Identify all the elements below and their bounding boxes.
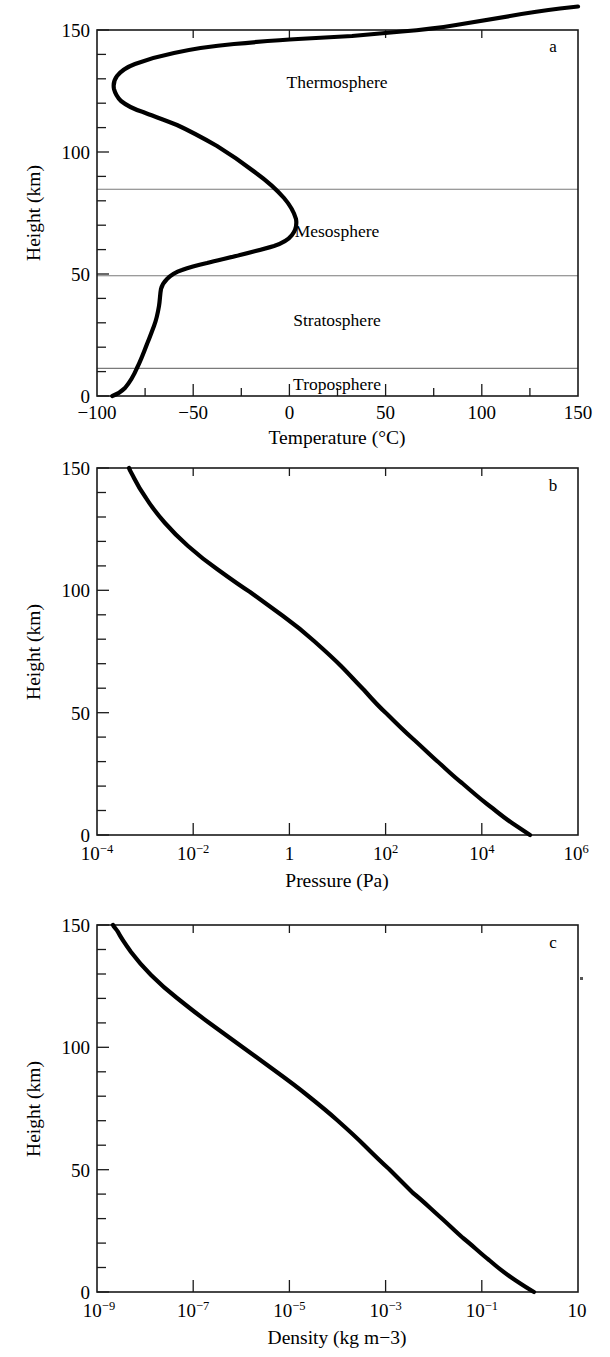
panel-b-svg: b 150 100 50 0 10−4 10−2 1 102 xyxy=(0,450,610,900)
svg-text:10−9: 10−9 xyxy=(83,1299,115,1321)
x-ticklabel-b-base-3: 10 xyxy=(373,843,392,864)
y-major-ticks-b xyxy=(97,468,109,835)
y-axis-title-a: Height (km) xyxy=(23,165,45,261)
plot-frame-b xyxy=(97,468,578,835)
x-ticklabel-b-base-2: 1 xyxy=(285,843,295,864)
x-ticklabel-a-m50: −50 xyxy=(178,402,208,423)
x-ticklabel-c-base-4: 10 xyxy=(466,1300,485,1321)
y-ticklabel-c-50: 50 xyxy=(71,1160,90,1181)
svg-text:1: 1 xyxy=(285,843,295,864)
x-ticklabel-a-m100: −100 xyxy=(77,402,116,423)
x-ticklabel-b-exp-5: 6 xyxy=(582,842,588,856)
x-ticklabel-c-10: 10 xyxy=(568,1300,587,1321)
x-ticks-b xyxy=(193,468,482,835)
panel-c-density: c 150 100 50 0 10−9 10−7 10−5 10−3 xyxy=(0,900,610,1357)
svg-text:10−4: 10−4 xyxy=(81,842,114,864)
panel-a-temperature: Thermosphere Mesosphere Stratosphere Tro… xyxy=(0,0,610,450)
y-major-ticks-c xyxy=(97,925,109,1292)
x-ticklabel-c-exp-3: −3 xyxy=(388,1299,401,1313)
x-ticklabel-c-1e-7: 10−7 xyxy=(177,1299,209,1321)
x-ticklabel-b-exp-4: 4 xyxy=(488,842,495,856)
x-ticklabel-b-1: 1 xyxy=(285,843,295,864)
x-ticklabel-a-100: 100 xyxy=(468,402,497,423)
x-ticklabel-b-base-5: 10 xyxy=(563,843,582,864)
y-minor-ticks-c xyxy=(97,950,106,1268)
x-ticklabel-c-base-5: 10 xyxy=(568,1300,587,1321)
x-ticklabel-b-exp-3: 2 xyxy=(392,842,398,856)
y-axis-title-c: Height (km) xyxy=(23,1061,45,1157)
svg-text:10−5: 10−5 xyxy=(273,1299,305,1321)
x-ticklabel-b-base-1: 10 xyxy=(177,843,196,864)
x-ticklabel-c-exp-1: −7 xyxy=(196,1299,209,1313)
svg-text:10−7: 10−7 xyxy=(177,1299,209,1321)
panel-letter-a: a xyxy=(549,37,557,56)
x-axis-title-a: Temperature (°C) xyxy=(269,427,406,449)
layer-label-troposphere: Troposphere xyxy=(293,374,381,394)
x-ticklabel-b-1e-4: 10−4 xyxy=(81,842,114,864)
x-ticklabel-c-base-1: 10 xyxy=(177,1300,196,1321)
x-ticklabel-a-0: 0 xyxy=(285,402,295,423)
x-ticklabel-c-1e-1: 10−1 xyxy=(466,1299,498,1321)
svg-text:10−2: 10−2 xyxy=(177,842,209,864)
x-ticklabel-b-base-4: 10 xyxy=(469,843,488,864)
x-ticklabel-c-1e-5: 10−5 xyxy=(273,1299,305,1321)
x-ticklabel-b-base-0: 10 xyxy=(81,843,100,864)
plot-frame-c xyxy=(97,925,578,1292)
y-axis-title-b: Height (km) xyxy=(23,604,45,700)
x-ticklabel-b-1e6: 106 xyxy=(563,842,588,864)
x-ticks-c xyxy=(193,925,482,1292)
y-ticklabel-b-100: 100 xyxy=(62,580,91,601)
y-major-ticks-a xyxy=(97,30,109,396)
x-ticklabel-c-base-3: 10 xyxy=(369,1300,388,1321)
temperature-profile-curve xyxy=(112,7,578,397)
panel-a-svg: Thermosphere Mesosphere Stratosphere Tro… xyxy=(0,0,610,450)
layer-label-mesosphere: Mesosphere xyxy=(295,221,380,241)
svg-text:102: 102 xyxy=(373,842,398,864)
x-ticklabel-c-exp-2: −5 xyxy=(292,1299,305,1313)
x-ticklabel-b-1e2: 102 xyxy=(373,842,398,864)
x-ticklabel-c-base-2: 10 xyxy=(273,1300,292,1321)
x-axis-title-c-text: Density (kg m−3) xyxy=(268,1327,407,1349)
y-minor-ticks-a xyxy=(97,54,106,371)
y-ticklabel-a-100: 100 xyxy=(62,142,91,163)
y-ticklabel-a-150: 150 xyxy=(62,20,91,41)
pressure-profile-curve xyxy=(129,468,530,835)
x-ticklabel-c-1e-3: 10−3 xyxy=(369,1299,401,1321)
y-ticklabel-b-50: 50 xyxy=(71,703,90,724)
x-axis-title-b: Pressure (Pa) xyxy=(285,870,388,892)
x-ticklabel-c-exp-4: −1 xyxy=(485,1299,498,1313)
x-ticklabel-c-base-0: 10 xyxy=(83,1300,102,1321)
x-ticklabel-a-150: 150 xyxy=(564,402,593,423)
x-ticklabel-c-1e-9: 10−9 xyxy=(83,1299,115,1321)
x-ticklabel-b-1e-2: 10−2 xyxy=(177,842,209,864)
x-axis-title-c: Density (kg m−3) xyxy=(268,1327,407,1349)
layer-label-stratosphere: Stratosphere xyxy=(293,310,381,330)
y-ticklabel-c-150: 150 xyxy=(62,915,91,936)
svg-text:10−3: 10−3 xyxy=(369,1299,401,1321)
x-ticklabel-b-exp-1: −2 xyxy=(196,842,209,856)
svg-text:10: 10 xyxy=(568,1300,587,1321)
x-ticklabel-a-50: 50 xyxy=(376,402,395,423)
panel-letter-c: c xyxy=(549,933,557,952)
svg-text:106: 106 xyxy=(563,842,588,864)
panel-b-pressure: b 150 100 50 0 10−4 10−2 1 102 xyxy=(0,450,610,900)
stray-mark xyxy=(580,977,583,980)
panel-c-svg: c 150 100 50 0 10−9 10−7 10−5 10−3 xyxy=(0,900,610,1357)
y-minor-ticks-b xyxy=(97,493,106,811)
x-ticklabel-b-exp-0: −4 xyxy=(100,842,114,856)
y-ticklabel-c-100: 100 xyxy=(62,1037,91,1058)
svg-text:104: 104 xyxy=(469,842,495,864)
svg-text:10−1: 10−1 xyxy=(466,1299,498,1321)
layer-label-thermosphere: Thermosphere xyxy=(286,72,387,92)
y-ticklabel-a-50: 50 xyxy=(71,264,90,285)
x-ticklabel-b-1e4: 104 xyxy=(469,842,495,864)
y-ticklabel-b-150: 150 xyxy=(62,458,91,479)
x-ticklabel-c-exp-0: −9 xyxy=(102,1299,115,1313)
density-profile-curve xyxy=(113,925,534,1292)
panel-letter-b: b xyxy=(549,476,558,495)
